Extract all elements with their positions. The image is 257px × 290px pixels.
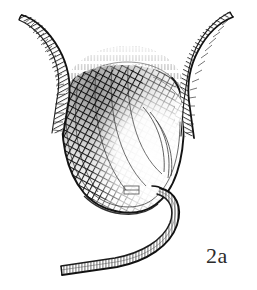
figure-label: 2a [206,243,228,269]
figure-container: 2a [0,0,257,290]
